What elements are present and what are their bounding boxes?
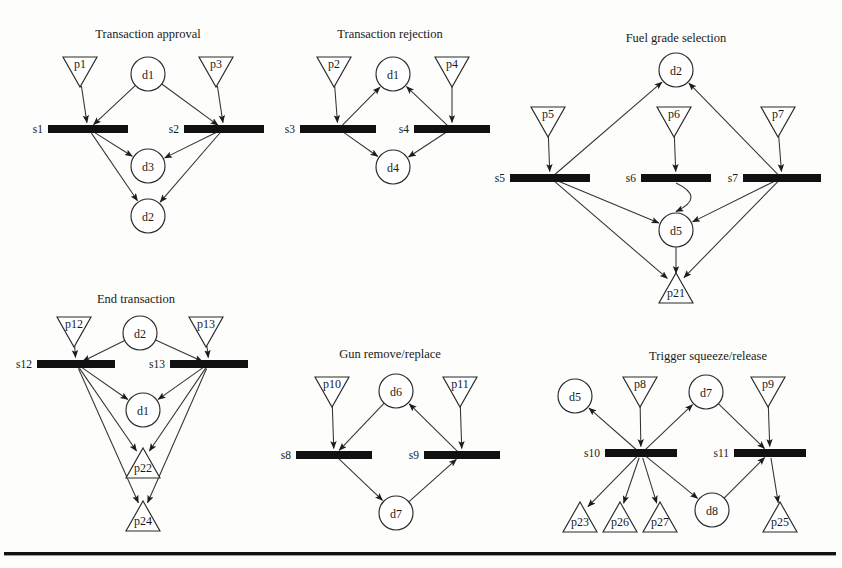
diagram-fuel-grade-selection: s5s6s7p5p6p7p21d2d5Fuel grade selection xyxy=(495,31,821,303)
node-p27[interactable]: p27 xyxy=(643,502,677,532)
node-p24[interactable]: p24 xyxy=(126,501,160,531)
diagram-transaction-rejection: s3s4p2p4d1d4Transaction rejection xyxy=(285,27,490,184)
node-d7[interactable]: d7 xyxy=(689,375,723,409)
transition-bar-s12 xyxy=(37,360,115,368)
node-p12[interactable]: p12 xyxy=(57,317,91,347)
node-label-d8: d8 xyxy=(706,504,718,518)
node-d8[interactable]: d8 xyxy=(695,493,729,527)
node-s11[interactable]: s11 xyxy=(713,447,806,459)
transition-label-s6: s6 xyxy=(626,172,636,184)
node-d6[interactable]: d6 xyxy=(379,374,413,408)
diagram-title-fuel-grade-selection: Fuel grade selection xyxy=(626,31,727,45)
diagram-title-transaction-approval: Transaction approval xyxy=(95,27,201,41)
node-d2[interactable]: d2 xyxy=(131,199,165,233)
node-p22[interactable]: p22 xyxy=(126,448,160,478)
node-d3[interactable]: d3 xyxy=(131,149,165,183)
edge-s7-to-p21 xyxy=(684,182,778,278)
node-p26[interactable]: p26 xyxy=(603,502,637,532)
figure-sheet: s1s2p1p3d1d3d2Transaction approvals3s4p2… xyxy=(0,0,842,568)
node-label-p25: p25 xyxy=(771,515,789,529)
transition-label-s12: s12 xyxy=(16,358,32,370)
edge-s13-to-d1 xyxy=(158,367,204,400)
edge-s8-to-d7 xyxy=(338,458,382,500)
node-label-p8: p8 xyxy=(634,377,646,391)
edge-s7-to-d2 xyxy=(689,83,778,174)
transition-label-s8: s8 xyxy=(281,449,291,461)
node-label-p13: p13 xyxy=(197,317,215,331)
node-label-d6: d6 xyxy=(390,385,402,399)
node-label-p1: p1 xyxy=(74,57,86,71)
diagram-trigger-squeeze-release: s10s11p8p9p23p26p27p25d5d7d8Trigger sque… xyxy=(558,349,806,532)
node-s9[interactable]: s9 xyxy=(409,449,500,461)
node-s8[interactable]: s8 xyxy=(281,449,372,461)
node-label-d2: d2 xyxy=(134,327,146,341)
edge-s12-to-d1 xyxy=(81,367,128,400)
node-p5[interactable]: p5 xyxy=(531,107,565,137)
node-s6[interactable]: s6 xyxy=(626,172,711,184)
node-label-p9: p9 xyxy=(762,377,774,391)
node-p4[interactable]: p4 xyxy=(435,57,469,87)
edge-s9-to-d6 xyxy=(409,404,457,452)
node-d5[interactable]: d5 xyxy=(659,213,693,247)
node-d5[interactable]: d5 xyxy=(558,379,592,413)
edge-s7-to-d5 xyxy=(693,180,777,222)
transition-label-s5: s5 xyxy=(495,172,505,184)
node-s10[interactable]: s10 xyxy=(584,447,677,459)
node-s12[interactable]: s12 xyxy=(16,358,115,370)
node-label-p23: p23 xyxy=(571,515,589,529)
node-label-p6: p6 xyxy=(668,107,680,121)
node-p23[interactable]: p23 xyxy=(563,502,597,532)
node-p2[interactable]: p2 xyxy=(317,57,351,87)
diagram-title-gun-remove-replace: Gun remove/replace xyxy=(339,347,441,361)
edge-group xyxy=(335,86,452,157)
edge-d1-to-s2 xyxy=(162,84,218,125)
node-p21[interactable]: p21 xyxy=(659,273,693,303)
node-p13[interactable]: p13 xyxy=(189,317,223,347)
node-s5[interactable]: s5 xyxy=(495,172,590,184)
node-p25[interactable]: p25 xyxy=(763,502,797,532)
node-p6[interactable]: p6 xyxy=(657,107,691,137)
edge-p12-to-s12 xyxy=(75,346,76,358)
node-p8[interactable]: p8 xyxy=(623,377,657,407)
edge-p6-to-s6 xyxy=(674,136,675,172)
node-p3[interactable]: p3 xyxy=(199,57,233,87)
edge-p7-to-s7 xyxy=(779,136,782,172)
node-label-p26: p26 xyxy=(611,515,629,529)
node-label-d7: d7 xyxy=(390,507,402,521)
node-label-d2: d2 xyxy=(142,210,154,224)
node-d2[interactable]: d2 xyxy=(123,316,157,350)
node-d1[interactable]: d1 xyxy=(126,393,160,427)
transition-bar-s8 xyxy=(296,451,372,459)
transition-bar-s11 xyxy=(734,449,806,457)
node-s7[interactable]: s7 xyxy=(728,172,821,184)
node-p10[interactable]: p10 xyxy=(315,377,349,407)
node-p11[interactable]: p11 xyxy=(443,377,477,407)
transition-label-s13: s13 xyxy=(149,358,165,370)
node-d1[interactable]: d1 xyxy=(376,57,410,91)
node-d2[interactable]: d2 xyxy=(659,53,693,87)
node-p7[interactable]: p7 xyxy=(761,107,795,137)
node-s1[interactable]: s1 xyxy=(33,123,128,135)
edge-p2-to-s3 xyxy=(335,86,338,123)
node-d7[interactable]: d7 xyxy=(379,496,413,530)
node-d1[interactable]: d1 xyxy=(131,57,165,91)
edge-d2-to-s12 xyxy=(83,340,125,361)
edge-group xyxy=(81,84,223,202)
edge-p13-to-s13 xyxy=(207,346,208,358)
node-p9[interactable]: p9 xyxy=(751,377,785,407)
edge-s5-to-d2 xyxy=(555,82,662,175)
transition-label-s2: s2 xyxy=(169,123,179,135)
transition-bar-s1 xyxy=(48,125,128,133)
edge-d1-to-s1 xyxy=(94,85,136,124)
diagram-transaction-approval: s1s2p1p3d1d3d2Transaction approval xyxy=(33,27,264,233)
node-label-d4: d4 xyxy=(387,161,399,175)
node-s3[interactable]: s3 xyxy=(285,123,376,135)
node-s2[interactable]: s2 xyxy=(169,123,264,135)
node-p1[interactable]: p1 xyxy=(63,57,97,87)
edge-s10-to-d7 xyxy=(645,405,692,450)
edge-s12-to-p24 xyxy=(78,369,138,503)
transition-bar-s2 xyxy=(184,125,264,133)
diagram-title-transaction-rejection: Transaction rejection xyxy=(337,27,443,41)
node-label-p7: p7 xyxy=(772,107,784,121)
node-d4[interactable]: d4 xyxy=(376,150,410,184)
